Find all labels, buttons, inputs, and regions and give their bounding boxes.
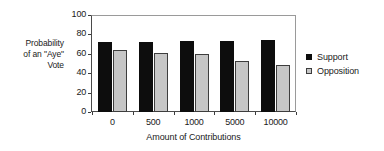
x-axis-tick-label: 0 [92, 117, 132, 127]
legend-swatch-support-icon [306, 54, 312, 60]
bar-chart: Probability of an "Aye" Vote 02040608010… [0, 0, 384, 151]
x-axis-tick-mark [133, 112, 134, 115]
bar-support [261, 40, 275, 112]
y-axis-tick-label: 0 [64, 107, 86, 116]
x-axis-tick-mark [296, 112, 297, 115]
legend-label-support: Support [317, 52, 348, 62]
y-axis-label-line-2: of an "Aye" [2, 49, 64, 60]
plot-area [92, 15, 296, 112]
legend-swatch-opposition-icon [306, 68, 312, 74]
legend-item-opposition: Opposition [306, 64, 359, 78]
x-axis-tick-mark [174, 112, 175, 115]
bar-group [139, 15, 168, 112]
y-axis-label-line-3: Vote [2, 60, 64, 71]
bar-opposition [113, 50, 127, 112]
y-axis-tick-label: 80 [64, 29, 86, 38]
x-axis-tick-mark [214, 112, 215, 115]
bar-opposition [276, 65, 290, 112]
bar-support [139, 42, 153, 112]
x-axis-label: Amount of Contributions [91, 132, 296, 142]
bar-support [220, 41, 234, 112]
y-axis-label-line-1: Probability [2, 38, 64, 49]
y-axis-tick-label: 100 [64, 10, 86, 19]
y-axis-tick-label: 20 [64, 88, 86, 97]
bar-support [180, 41, 194, 112]
y-axis-tick-mark [88, 112, 91, 113]
y-axis-label: Probability of an "Aye" Vote [2, 38, 64, 71]
x-axis-tick-label: 5000 [215, 117, 255, 127]
x-axis-tick-label: 1000 [174, 117, 214, 127]
legend-item-support: Support [306, 50, 359, 64]
y-axis-tick-label: 40 [64, 68, 86, 77]
x-axis-tick-label: 500 [133, 117, 173, 127]
bar-group [98, 15, 127, 112]
bar-support [98, 42, 112, 112]
x-axis-tick-mark [255, 112, 256, 115]
legend: Support Opposition [306, 50, 359, 78]
legend-label-opposition: Opposition [317, 66, 359, 76]
x-axis-tick-label: 10000 [256, 117, 296, 127]
y-axis-tick-label: 60 [64, 49, 86, 58]
bar-opposition [195, 54, 209, 112]
bar-opposition [154, 53, 168, 112]
bar-group [180, 15, 209, 112]
bar-opposition [235, 61, 249, 112]
bar-group [261, 15, 290, 112]
bar-group [220, 15, 249, 112]
x-axis-tick-mark [92, 112, 93, 115]
